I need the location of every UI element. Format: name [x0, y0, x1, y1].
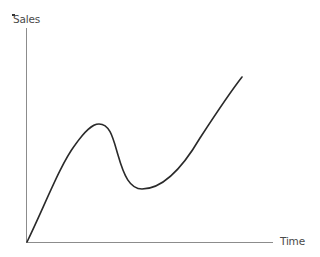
- x-axis-label: Time: [280, 235, 305, 247]
- sales-curve: [27, 77, 242, 242]
- y-axis-label: Sales: [13, 13, 40, 25]
- chart-canvas: [0, 0, 320, 257]
